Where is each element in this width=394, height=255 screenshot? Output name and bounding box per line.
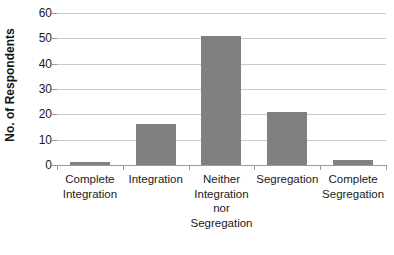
bar (333, 160, 373, 165)
y-tick-label-30: 30 (6, 83, 52, 95)
y-tick-label-50: 50 (6, 32, 52, 44)
y-tick-label-20: 20 (6, 108, 52, 120)
x-tick-mark (57, 165, 58, 170)
bars (57, 13, 386, 165)
bar-slot (320, 13, 386, 165)
y-tick-label-60: 60 (6, 7, 52, 19)
bar (136, 124, 176, 165)
bar-chart: No. of Respondents 6050403020100 Complet… (0, 0, 394, 255)
x-tick-mark (386, 165, 387, 170)
x-tick-mark (189, 165, 190, 170)
bar-slot (57, 13, 123, 165)
x-tick-mark (254, 165, 255, 170)
x-axis-label: Segregation (250, 172, 324, 187)
bar (70, 162, 110, 165)
x-axis-labels: Complete IntegrationIntegrationNeither I… (57, 172, 386, 254)
y-axis-ticks: 6050403020100 (0, 13, 52, 165)
x-tick-mark (320, 165, 321, 170)
bar-slot (189, 13, 255, 165)
y-tick-label-0: 0 (6, 159, 52, 171)
y-tick-label-40: 40 (6, 58, 52, 70)
x-axis-label: Complete Segregation (316, 172, 390, 201)
bar (267, 112, 307, 165)
bar-slot (123, 13, 189, 165)
bar (201, 36, 241, 165)
y-tick-label-10: 10 (6, 134, 52, 146)
bar-slot (254, 13, 320, 165)
x-axis-label: Neither Integration nor Segregation (185, 172, 259, 230)
gridline-0 (57, 165, 386, 166)
x-tick-mark (123, 165, 124, 170)
plot-area (57, 13, 386, 165)
x-axis-label: Complete Integration (53, 172, 127, 201)
x-axis-label: Integration (119, 172, 193, 187)
